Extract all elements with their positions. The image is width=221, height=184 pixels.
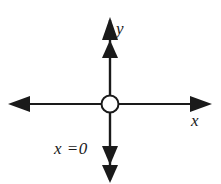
axes-diagram (0, 0, 221, 184)
x-axis-right-arrowhead (190, 96, 212, 112)
y-axis-label: y (116, 20, 124, 37)
y-axis-lower-inner-arrowhead (102, 146, 118, 165)
equation-label-x-equals-zero: x =0 (54, 140, 88, 157)
x-axis-left-arrowhead (8, 96, 30, 112)
origin-open-circle-marker (102, 96, 119, 113)
x-axis-label: x (191, 112, 199, 129)
y-axis-upper-inner-arrowhead (102, 40, 118, 58)
coordinate-plane-figure: y x x =0 (0, 0, 221, 184)
y-axis-lower-outer-arrowhead (102, 165, 118, 183)
